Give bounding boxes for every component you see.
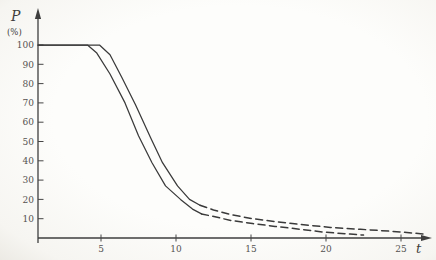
curve-2-dashed xyxy=(200,205,425,234)
x-tick-label: 10 xyxy=(170,244,182,254)
y-ticks: 102030405060708090100 xyxy=(17,40,44,224)
x-tick-label: 15 xyxy=(245,244,257,254)
curve-1-dashed xyxy=(202,214,364,235)
y-axis xyxy=(35,8,41,243)
x-axis-label: t xyxy=(416,241,422,256)
y-tick-label: 80 xyxy=(23,79,35,89)
y-tick-label: 60 xyxy=(23,117,35,127)
y-axis-arrow-icon xyxy=(35,8,41,19)
y-axis-label-symbol: P xyxy=(10,8,21,24)
y-axis-label-unit: (%) xyxy=(7,27,22,37)
y-tick-label: 10 xyxy=(23,214,35,224)
chart-svg: 102030405060708090100 510152025 P (%) t xyxy=(0,0,436,260)
x-axis-arrow-icon xyxy=(421,235,432,241)
x-axis xyxy=(38,235,432,241)
y-tick-label: 90 xyxy=(23,60,35,70)
y-tick-label: 30 xyxy=(23,175,35,185)
x-tick-label: 25 xyxy=(395,244,407,254)
y-tick-label: 70 xyxy=(23,98,35,108)
y-tick-label: 50 xyxy=(23,137,35,147)
curve-1-solid xyxy=(38,45,202,214)
y-tick-label: 100 xyxy=(17,40,34,50)
chart-figure: 102030405060708090100 510152025 P (%) t xyxy=(0,0,436,260)
y-tick-label: 20 xyxy=(23,195,35,205)
curve-2-solid xyxy=(38,45,200,205)
x-tick-label: 5 xyxy=(98,244,104,254)
y-tick-label: 40 xyxy=(23,156,35,166)
x-tick-label: 20 xyxy=(320,244,332,254)
